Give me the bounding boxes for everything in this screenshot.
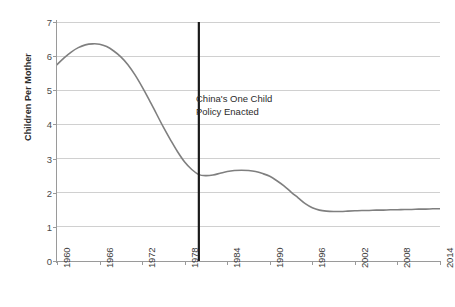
x-tick-mark bbox=[270, 261, 271, 265]
fertility-rate-chart: Children Per Mother 01234567 19601966197… bbox=[0, 0, 455, 307]
x-tick-mark bbox=[397, 261, 398, 265]
x-tick-label: 1990 bbox=[274, 248, 285, 268]
x-tick-label: 1972 bbox=[146, 248, 157, 268]
plot-area bbox=[57, 22, 440, 261]
x-tick-mark bbox=[227, 261, 228, 265]
x-tick-mark bbox=[142, 261, 143, 265]
annotation-one-child-policy: China's One Child Policy Enacted bbox=[196, 93, 272, 118]
annotation-line-2: Policy Enacted bbox=[196, 106, 272, 119]
x-tick-mark bbox=[100, 261, 101, 265]
x-tick-label: 1984 bbox=[231, 248, 242, 268]
y-tick-label: 1 bbox=[30, 221, 52, 232]
annotation-line-1: China's One Child bbox=[196, 93, 272, 106]
x-tick-mark bbox=[57, 261, 58, 265]
y-tick-label: 5 bbox=[30, 85, 52, 96]
y-tick-label: 4 bbox=[30, 119, 52, 130]
x-tick-label: 2014 bbox=[444, 248, 455, 268]
x-tick-mark bbox=[312, 261, 313, 265]
x-tick-label: 1966 bbox=[104, 248, 115, 268]
y-axis-ticks: 01234567 bbox=[28, 22, 52, 261]
x-tick-label: 1996 bbox=[316, 248, 327, 268]
event-vline-one-child-policy bbox=[57, 22, 440, 261]
x-tick-mark bbox=[355, 261, 356, 265]
y-tick-label: 0 bbox=[30, 256, 52, 267]
x-tick-label: 1978 bbox=[189, 248, 200, 268]
y-tick-label: 2 bbox=[30, 187, 52, 198]
x-tick-mark bbox=[185, 261, 186, 265]
x-tick-label: 2008 bbox=[401, 248, 412, 268]
y-tick-label: 7 bbox=[30, 17, 52, 28]
x-tick-label: 2002 bbox=[359, 248, 370, 268]
x-tick-mark bbox=[440, 261, 441, 265]
y-tick-label: 3 bbox=[30, 153, 52, 164]
x-axis-ticks: 1960196619721978198419901996200220082014 bbox=[57, 261, 440, 307]
y-tick-label: 6 bbox=[30, 51, 52, 62]
x-tick-label: 1960 bbox=[61, 248, 72, 268]
